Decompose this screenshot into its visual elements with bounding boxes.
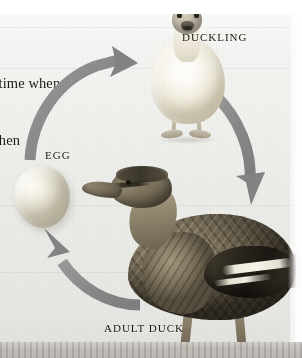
body-text-line-2: e when (0, 131, 108, 150)
page-top-margin (0, 0, 302, 14)
duck-wing (204, 246, 296, 298)
page-bottom-edge (0, 342, 302, 358)
duck-crown-stripe (116, 166, 168, 182)
stage-label-adult-duck: ADULT DUCK (104, 322, 184, 334)
duckling-illustration (139, 0, 235, 146)
book-page-figure: e a time when e when (0, 0, 302, 358)
body-text-line-1: e a time when (0, 74, 108, 93)
stage-label-egg: EGG (45, 149, 71, 161)
page-right-margin (288, 0, 302, 358)
stage-label-duckling: DUCKLING (182, 31, 247, 43)
duckling-open-mouth (183, 26, 192, 30)
duck-eye (126, 180, 131, 185)
duck-bill (81, 180, 122, 199)
